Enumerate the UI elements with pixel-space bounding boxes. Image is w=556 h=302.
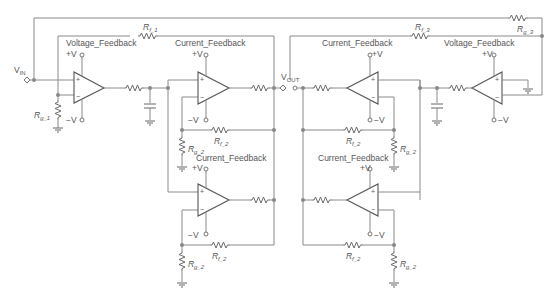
- svg-text:−: −: [76, 93, 80, 100]
- svg-text:+: +: [200, 76, 204, 83]
- opamp-u4-type: Current_Feedback: [322, 38, 393, 48]
- svg-text:−: −: [200, 206, 204, 213]
- svg-text:f_2: f_2: [218, 256, 227, 262]
- svg-text:g_2: g_2: [406, 264, 417, 270]
- svg-text:+: +: [76, 76, 80, 83]
- resistor-rf3: [410, 33, 430, 39]
- opamp-u3-type: Current_Feedback: [196, 153, 267, 163]
- opamp-u6-type: Voltage_Feedback: [444, 38, 515, 48]
- svg-text:−: −: [371, 206, 375, 213]
- svg-text:+: +: [371, 188, 375, 195]
- svg-text:−: −: [371, 94, 375, 101]
- resistor-rg3: [508, 15, 528, 21]
- resistor-rf1: [138, 33, 158, 39]
- opamp-u5: + − +V −V Current_Feedback: [318, 153, 389, 240]
- rg1-label: Rg_1: [34, 110, 50, 121]
- svg-text:f_2: f_2: [352, 141, 361, 147]
- svg-text:f_2: f_2: [220, 141, 229, 147]
- svg-text:−V: −V: [188, 230, 199, 240]
- svg-text:−: −: [495, 94, 499, 101]
- opamp-u1: + − +V −V Voltage_Feedback: [66, 38, 137, 125]
- svg-text:+: +: [371, 76, 375, 83]
- vout-terminal[interactable]: [280, 85, 286, 91]
- opamp-u2: + − +V −V Current_Feedback: [175, 38, 246, 125]
- opamp-u5-type: Current_Feedback: [318, 153, 389, 163]
- svg-text:+V: +V: [482, 49, 493, 59]
- svg-text:+: +: [200, 188, 204, 195]
- svg-text:−V: −V: [66, 115, 77, 125]
- wire-top-loop: [34, 18, 508, 80]
- opamp-u6: + − +V −V Voltage_Feedback: [444, 38, 515, 125]
- svg-text:g_2: g_2: [406, 149, 417, 155]
- svg-text:+V: +V: [360, 163, 371, 173]
- opamp-u1-type: Voltage_Feedback: [66, 38, 137, 48]
- svg-text:f_2: f_2: [352, 256, 361, 262]
- vin-label: VIN: [14, 65, 26, 76]
- opamp-u4: + − +V −V Current_Feedback: [322, 38, 393, 125]
- svg-text:+V: +V: [372, 49, 383, 59]
- svg-text:+V: +V: [66, 49, 77, 59]
- opamp-u3: + − +V −V Current_Feedback: [188, 153, 267, 240]
- rf3-label: Rf_3: [415, 22, 430, 33]
- vin-terminal[interactable]: [24, 77, 30, 83]
- svg-text:+V: +V: [192, 163, 203, 173]
- svg-text:−V: −V: [374, 115, 385, 125]
- opamp-u2-type: Current_Feedback: [175, 38, 246, 48]
- rg3-label: Rg_3: [517, 24, 534, 35]
- svg-text:g_2: g_2: [194, 264, 205, 270]
- svg-text:−V: −V: [188, 115, 199, 125]
- rf1-label: Rf_1: [143, 22, 157, 33]
- svg-text:−: −: [200, 94, 204, 101]
- svg-text:+V: +V: [192, 49, 203, 59]
- svg-text:−V: −V: [374, 230, 385, 240]
- circuit-schematic: Rf_1 Rg_3 Rf_3 VIN Rg_1 + − +V −V Voltag…: [0, 0, 556, 302]
- svg-text:−V: −V: [498, 115, 509, 125]
- svg-text:+: +: [495, 76, 499, 83]
